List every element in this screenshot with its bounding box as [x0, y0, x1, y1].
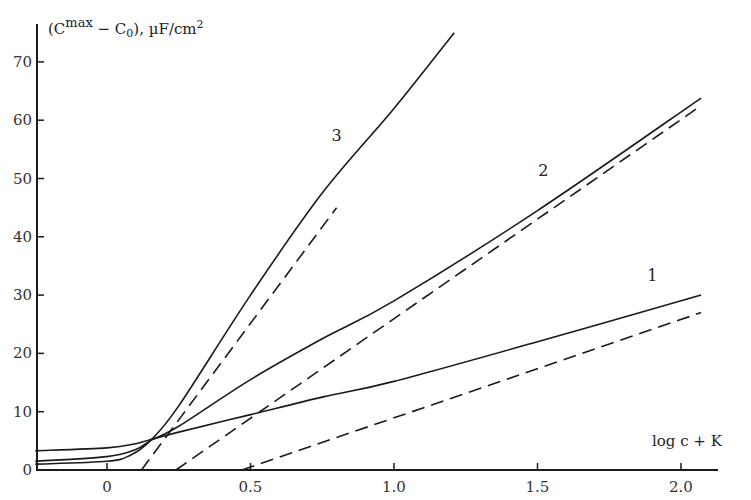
y-tick-label: 0 [22, 461, 32, 479]
curve-labels: 123 [332, 126, 658, 285]
x-tick-label: 2.0 [669, 478, 693, 496]
y-tick-label: 50 [13, 170, 32, 188]
y-tick-label: 30 [13, 286, 32, 304]
axes: 01020304050607000.51.01.52.0 [13, 24, 718, 496]
curve-label-3: 3 [332, 126, 342, 145]
y-tick-label: 40 [13, 228, 32, 246]
x-tick-label: 1.0 [382, 478, 406, 496]
x-tick-label: 0.5 [239, 478, 263, 496]
series-1 [35, 295, 701, 451]
series-1-asymptote [242, 313, 701, 470]
curve-label-1: 1 [647, 266, 657, 285]
x-tick-label: 0 [102, 478, 112, 496]
series-3 [35, 33, 454, 464]
x-tick-label: 1.5 [526, 478, 550, 496]
y-tick-label: 10 [13, 403, 32, 421]
x-axis-title: log c + K [652, 432, 723, 450]
y-axis-title: (Cmax − C0), µF/cm2 [48, 15, 204, 40]
series-3-asymptote [141, 208, 336, 470]
y-tick-label: 60 [13, 111, 32, 129]
y-tick-label: 20 [13, 344, 32, 362]
y-tick-label: 70 [13, 53, 32, 71]
series-2 [35, 98, 701, 461]
curve-label-2: 2 [538, 161, 548, 180]
series-group [35, 33, 701, 470]
chart: 01020304050607000.51.01.52.0 123 (Cmax −… [0, 0, 751, 500]
